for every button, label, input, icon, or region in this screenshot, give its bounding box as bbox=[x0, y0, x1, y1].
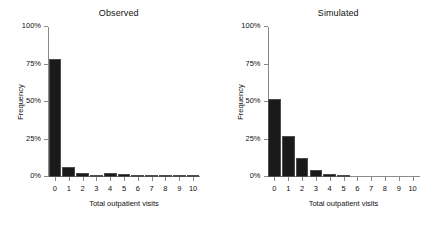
x-axis-tick: 6 bbox=[138, 177, 139, 181]
y-axis-tick-label: 50% bbox=[245, 96, 260, 105]
bar bbox=[296, 158, 309, 178]
y-axis-tick-label: 100% bbox=[241, 21, 260, 30]
y-axis-tick-label: 25% bbox=[245, 134, 260, 143]
chart-panel: SimulatedFrequency0%25%50%75%100%0123456… bbox=[220, 0, 439, 233]
y-axis-tick: 0% bbox=[44, 176, 48, 177]
x-axis-tick: 3 bbox=[96, 177, 97, 181]
x-axis-tick: 0 bbox=[55, 177, 56, 181]
y-axis-tick-label: 50% bbox=[26, 96, 41, 105]
y-axis-tick: 100% bbox=[44, 26, 48, 27]
x-axis-tick-label: 7 bbox=[369, 184, 373, 193]
y-axis-label: Frequency bbox=[16, 84, 25, 119]
y-axis-tick-label: 75% bbox=[245, 59, 260, 68]
x-axis-tick-label: 10 bbox=[189, 184, 197, 193]
x-axis-tick: 10 bbox=[193, 177, 194, 181]
x-axis-tick-label: 10 bbox=[408, 184, 416, 193]
x-axis-tick-label: 2 bbox=[300, 184, 304, 193]
y-axis-tick-label: 100% bbox=[22, 21, 41, 30]
x-axis-tick-label: 2 bbox=[80, 184, 84, 193]
x-axis-tick-label: 0 bbox=[272, 184, 276, 193]
x-axis-tick: 4 bbox=[330, 177, 331, 181]
x-axis-tick: 9 bbox=[399, 177, 400, 181]
x-axis-tick: 0 bbox=[274, 177, 275, 181]
x-axis-tick: 5 bbox=[344, 177, 345, 181]
y-axis-tick: 100% bbox=[264, 26, 268, 27]
x-axis-tick: 8 bbox=[165, 177, 166, 181]
x-axis-tick-label: 8 bbox=[383, 184, 387, 193]
x-axis-label: Total outpatient visits bbox=[48, 199, 200, 208]
x-axis-tick: 9 bbox=[179, 177, 180, 181]
plot-area: 0%25%50%75%100%012345678910 bbox=[48, 27, 200, 177]
x-axis-tick: 8 bbox=[385, 177, 386, 181]
x-axis-tick-label: 9 bbox=[397, 184, 401, 193]
x-axis-tick-label: 1 bbox=[286, 184, 290, 193]
x-axis-tick: 10 bbox=[413, 177, 414, 181]
y-axis-tick: 25% bbox=[44, 139, 48, 140]
y-axis-tick: 75% bbox=[264, 64, 268, 65]
x-axis-tick: 3 bbox=[316, 177, 317, 181]
y-axis-tick-label: 25% bbox=[26, 134, 41, 143]
histogram-figure: ObservedFrequency0%25%50%75%100%01234567… bbox=[0, 0, 439, 233]
y-axis-tick: 50% bbox=[264, 101, 268, 102]
x-axis-tick-label: 7 bbox=[150, 184, 154, 193]
y-axis-tick-label: 75% bbox=[26, 59, 41, 68]
bar bbox=[282, 136, 295, 177]
x-axis-tick-label: 4 bbox=[328, 184, 332, 193]
x-axis-tick-label: 3 bbox=[314, 184, 318, 193]
x-axis-tick: 4 bbox=[110, 177, 111, 181]
x-axis-tick-label: 4 bbox=[108, 184, 112, 193]
bar bbox=[310, 170, 323, 178]
y-axis-tick-label: 0% bbox=[250, 171, 261, 180]
y-axis-tick: 25% bbox=[264, 139, 268, 140]
chart-title: Observed bbox=[0, 8, 220, 18]
chart-title: Simulated bbox=[220, 8, 439, 18]
bar bbox=[268, 99, 281, 177]
x-axis-label: Total outpatient visits bbox=[268, 199, 420, 208]
x-axis-tick: 5 bbox=[124, 177, 125, 181]
bar bbox=[62, 167, 75, 177]
x-axis-tick-label: 5 bbox=[122, 184, 126, 193]
x-axis-tick-label: 6 bbox=[136, 184, 140, 193]
x-axis-tick: 2 bbox=[83, 177, 84, 181]
y-axis-tick: 50% bbox=[44, 101, 48, 102]
x-axis-tick: 1 bbox=[69, 177, 70, 181]
x-axis-tick: 7 bbox=[152, 177, 153, 181]
y-axis-tick: 0% bbox=[264, 176, 268, 177]
y-axis-tick: 75% bbox=[44, 64, 48, 65]
x-axis-tick-label: 1 bbox=[67, 184, 71, 193]
x-axis-tick-label: 9 bbox=[177, 184, 181, 193]
y-axis-tick-label: 0% bbox=[30, 171, 41, 180]
plot-area: 0%25%50%75%100%012345678910 bbox=[268, 27, 420, 177]
x-axis-tick: 2 bbox=[302, 177, 303, 181]
x-axis-tick-label: 8 bbox=[163, 184, 167, 193]
x-axis-tick: 6 bbox=[357, 177, 358, 181]
bar bbox=[49, 59, 62, 178]
y-axis-label: Frequency bbox=[236, 84, 245, 119]
x-axis-tick-label: 6 bbox=[355, 184, 359, 193]
x-axis-tick-label: 3 bbox=[94, 184, 98, 193]
x-axis-tick: 1 bbox=[288, 177, 289, 181]
x-axis-tick-label: 0 bbox=[53, 184, 57, 193]
x-axis-tick-label: 5 bbox=[341, 184, 345, 193]
x-axis-tick: 7 bbox=[371, 177, 372, 181]
chart-panel: ObservedFrequency0%25%50%75%100%01234567… bbox=[0, 0, 220, 233]
